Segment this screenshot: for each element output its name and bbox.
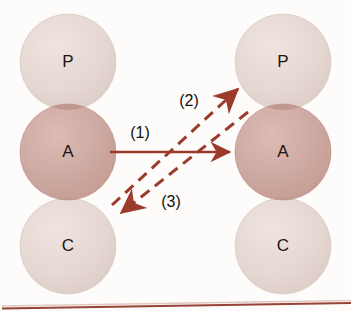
arrow-group: (1) (2) (3) (110, 89, 248, 213)
diagram-canvas: P A C P A C (0, 0, 351, 311)
label-right-c: C (277, 236, 290, 255)
label-right-a: A (277, 142, 289, 161)
left-cell-stack: P A C (20, 14, 116, 294)
label-left-c: C (62, 236, 75, 255)
diagram-svg: P A C P A C (0, 0, 351, 311)
label-left-a: A (62, 142, 74, 161)
arrow-2-label: (2) (179, 92, 199, 109)
label-right-p: P (277, 52, 289, 71)
arrow-1-label: (1) (130, 124, 150, 141)
right-cell-stack: P A C (235, 14, 331, 294)
arrow-2-line[interactable] (112, 89, 238, 205)
label-left-p: P (62, 52, 74, 71)
arrow-3-label: (3) (161, 193, 181, 210)
